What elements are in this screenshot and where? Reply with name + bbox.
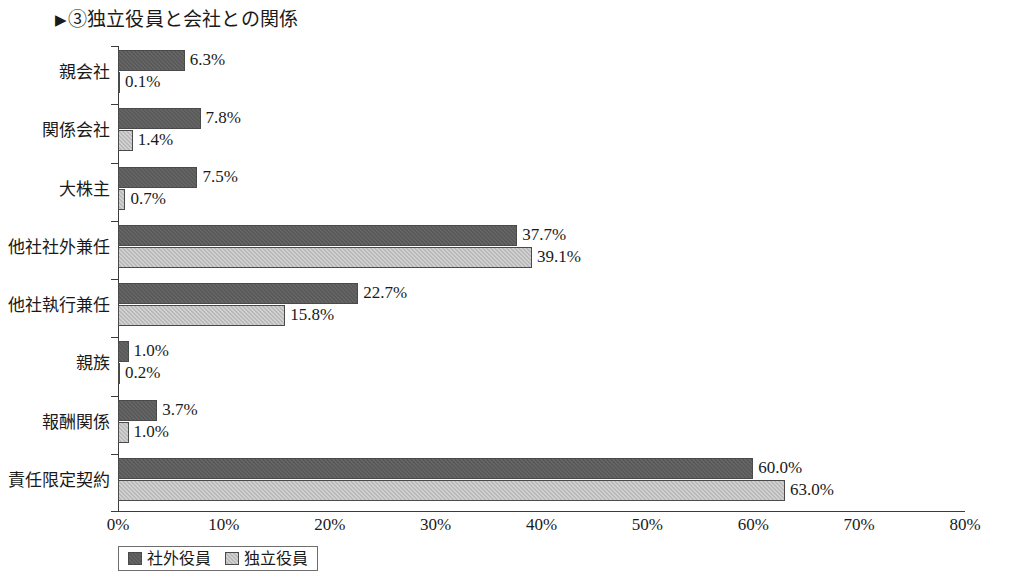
x-axis-tick-label-10%: 10% (208, 514, 239, 536)
category-label-他社社外兼任: 他社社外兼任 (0, 238, 110, 258)
x-axis-tick-label-60%: 60% (738, 514, 769, 536)
y-axis-tick (111, 221, 118, 222)
bar-value-label: 39.1% (537, 246, 581, 267)
bar-独立役員-他社執行兼任 (118, 305, 285, 326)
category-label-親族: 親族 (0, 354, 110, 374)
bar-社外役員-関係会社 (118, 108, 201, 129)
y-axis-tick (111, 454, 118, 455)
bar-value-label: 0.1% (125, 71, 160, 92)
bar-社外役員-報酬関係 (118, 400, 157, 421)
bar-value-label: 22.7% (363, 282, 407, 303)
bar-社外役員-親会社 (118, 50, 185, 71)
bar-value-label: 63.0% (790, 479, 834, 500)
bar-独立役員-親族 (118, 363, 120, 384)
bar-独立役員-他社社外兼任 (118, 247, 532, 268)
bar-独立役員-報酬関係 (118, 422, 129, 443)
y-axis-category-labels: 親会社関係会社大株主他社社外兼任他社執行兼任親族報酬関係責任限定契約 (0, 46, 110, 512)
chart-row: 3.7%1.0% (118, 396, 965, 454)
legend-label: 社外役員 (147, 550, 211, 568)
chart-row: 1.0%0.2% (118, 337, 965, 395)
chart-row: 7.5%0.7% (118, 163, 965, 221)
bar-社外役員-他社社外兼任 (118, 225, 517, 246)
page-title: ▶③独立役員と会社との関係 (55, 8, 298, 32)
category-label-責任限定契約: 責任限定契約 (0, 471, 110, 491)
category-label-報酬関係: 報酬関係 (0, 413, 110, 433)
bar-社外役員-責任限定契約 (118, 458, 753, 479)
bar-value-label: 0.7% (130, 188, 165, 209)
y-axis-tick (111, 104, 118, 105)
bar-独立役員-責任限定契約 (118, 480, 785, 501)
y-axis-tick (111, 337, 118, 338)
bar-社外役員-他社執行兼任 (118, 283, 358, 304)
chart-row: 37.7%39.1% (118, 221, 965, 279)
chart-row: 22.7%15.8% (118, 279, 965, 337)
x-axis-tick-label-20%: 20% (314, 514, 345, 536)
bar-value-label: 15.8% (290, 304, 334, 325)
bar-value-label: 7.5% (202, 166, 237, 187)
bar-value-label: 0.2% (125, 362, 160, 383)
y-axis-tick (111, 511, 118, 512)
bar-value-label: 7.8% (206, 107, 241, 128)
x-axis-tick-label-70%: 70% (844, 514, 875, 536)
bar-value-label: 3.7% (162, 399, 197, 420)
legend-swatch-icon (128, 552, 142, 565)
legend-item-社外役員: 社外役員 (128, 550, 211, 568)
chart-legend: 社外役員独立役員 (118, 546, 318, 571)
x-axis-tick-labels: 0%10%20%30%40%50%60%70%80% (118, 514, 965, 538)
triangle-marker-icon: ▶ (55, 12, 67, 28)
legend-swatch-icon (225, 552, 239, 565)
chart-row: 6.3%0.1% (118, 46, 965, 104)
chart-row: 7.8%1.4% (118, 104, 965, 162)
bar-社外役員-親族 (118, 341, 129, 362)
plot-area: 6.3%0.1%7.8%1.4%7.5%0.7%37.7%39.1%22.7%1… (118, 46, 965, 512)
page-title-text: ③独立役員と会社との関係 (68, 9, 298, 30)
category-label-関係会社: 関係会社 (0, 121, 110, 141)
category-label-他社執行兼任: 他社執行兼任 (0, 296, 110, 316)
y-axis-tick (111, 279, 118, 280)
chart-row: 60.0%63.0% (118, 454, 965, 512)
x-axis-tick-label-0%: 0% (107, 514, 130, 536)
legend-label: 独立役員 (244, 550, 308, 568)
bar-value-label: 1.0% (134, 421, 169, 442)
bar-value-label: 1.0% (134, 340, 169, 361)
bar-独立役員-親会社 (118, 72, 120, 93)
x-axis-tick-label-50%: 50% (632, 514, 663, 536)
bar-value-label: 60.0% (758, 457, 802, 478)
bar-社外役員-大株主 (118, 167, 197, 188)
y-axis-tick (111, 46, 118, 47)
x-axis-tick-label-40%: 40% (526, 514, 557, 536)
x-axis-tick-label-30%: 30% (420, 514, 451, 536)
bar-独立役員-関係会社 (118, 130, 133, 151)
category-label-大株主: 大株主 (0, 180, 110, 200)
bar-独立役員-大株主 (118, 189, 125, 210)
y-axis-tick (111, 163, 118, 164)
bar-value-label: 37.7% (522, 224, 566, 245)
bar-value-label: 6.3% (190, 49, 225, 70)
category-label-親会社: 親会社 (0, 63, 110, 83)
legend-item-独立役員: 独立役員 (225, 550, 308, 568)
bar-value-label: 1.4% (138, 129, 173, 150)
y-axis-tick (111, 396, 118, 397)
x-axis-tick-label-80%: 80% (949, 514, 980, 536)
